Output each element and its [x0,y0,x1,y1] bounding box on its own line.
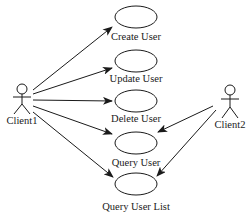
stick-figure-right-leg-icon [230,107,238,118]
actor-client2 [221,85,239,118]
use-case-label: Delete User [111,113,161,124]
actor-client1 [13,84,31,114]
use-case-ellipse [115,6,157,28]
use-case-ellipse [115,173,157,195]
use-case-create-user: Create User [111,6,161,42]
stick-figure-right-leg-icon [22,104,30,114]
association-client1-delete-user [33,100,112,101]
use-case-ellipse [115,132,157,154]
actor-label-client2: Client2 [215,119,246,130]
associations-client2 [157,106,216,176]
use-case-label: Query User List [102,201,170,212]
use-case-query-user: Query User [112,132,161,168]
association-client2-query-user-list [157,110,216,176]
use-case-query-user-list: Query User List [102,173,170,212]
use-case-ellipse [115,50,157,72]
associations-client1 [33,27,113,177]
stick-figure-head-icon [17,84,27,94]
use-case-label: Query User [112,157,161,168]
use-case-update-user: Update User [110,50,163,84]
association-client1-query-user [33,106,112,134]
association-client2-query-user [158,106,213,132]
use-case-label: Create User [111,31,161,42]
use-case-ellipse [115,90,157,112]
use-case-diagram: Create User Update User Delete User Quer… [0,0,249,221]
use-case-delete-user: Delete User [111,90,161,124]
stick-figure-left-leg-icon [14,104,22,114]
stick-figure-left-leg-icon [222,107,230,118]
actor-label-client1: Client1 [7,115,38,126]
association-client1-query-user-list [33,112,113,177]
use-case-label: Update User [110,73,163,84]
stick-figure-head-icon [225,85,235,95]
